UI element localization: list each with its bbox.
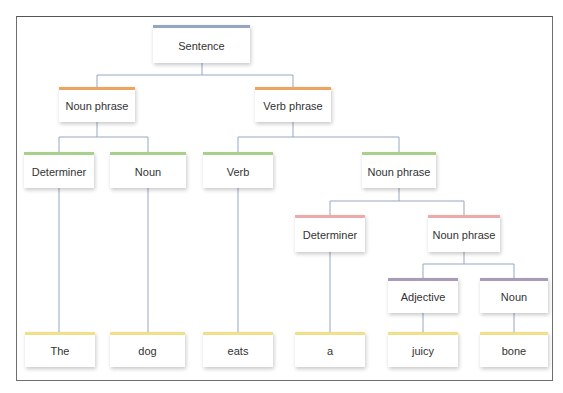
node-label: Determiner bbox=[32, 166, 86, 178]
leaf-word-dog: dog bbox=[110, 332, 185, 367]
leaf-label: eats bbox=[228, 345, 249, 357]
node-noun-phrase-object: Noun phrase bbox=[362, 152, 436, 188]
leaf-word-bone: bone bbox=[480, 332, 548, 367]
node-label: Noun bbox=[135, 166, 161, 178]
node-verb-phrase: Verb phrase bbox=[255, 87, 331, 122]
node-sentence: Sentence bbox=[153, 25, 250, 63]
node-noun-object: Noun bbox=[480, 278, 548, 313]
leaf-label: juicy bbox=[412, 345, 434, 357]
node-label: Determiner bbox=[303, 229, 357, 241]
node-label: Noun phrase bbox=[433, 229, 496, 241]
node-label: Noun phrase bbox=[368, 166, 431, 178]
leaf-word-juicy: juicy bbox=[388, 332, 458, 367]
leaf-label: a bbox=[327, 345, 333, 357]
leaf-label: dog bbox=[138, 345, 156, 357]
node-label: Noun bbox=[501, 291, 527, 303]
node-adjective: Adjective bbox=[388, 278, 458, 313]
node-noun-phrase-inner: Noun phrase bbox=[428, 215, 500, 252]
node-label: Noun phrase bbox=[66, 100, 129, 112]
node-noun-phrase: Noun phrase bbox=[59, 87, 135, 122]
leaf-label: bone bbox=[502, 345, 526, 357]
node-determiner-object: Determiner bbox=[295, 215, 365, 252]
leaf-word-a: a bbox=[295, 332, 365, 367]
node-noun: Noun bbox=[110, 152, 186, 188]
node-determiner: Determiner bbox=[24, 152, 94, 188]
node-verb: Verb bbox=[203, 152, 273, 188]
node-label: Sentence bbox=[178, 40, 224, 52]
node-label: Verb phrase bbox=[263, 100, 322, 112]
leaf-word-the: The bbox=[25, 332, 95, 367]
leaf-word-eats: eats bbox=[203, 332, 273, 367]
node-label: Verb bbox=[227, 166, 250, 178]
node-label: Adjective bbox=[401, 291, 446, 303]
leaf-label: The bbox=[51, 345, 70, 357]
